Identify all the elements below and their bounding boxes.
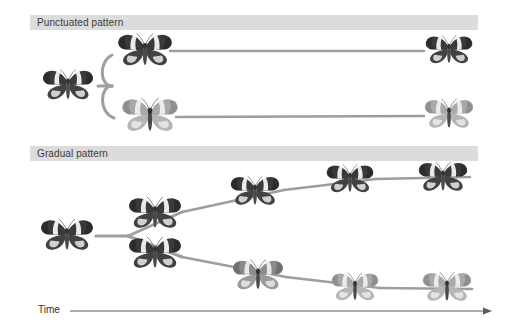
panel-label-gradual: Gradual pattern (30, 148, 108, 159)
butterfly-gradual-upper-step-2 (228, 171, 282, 214)
butterfly-gradual-lower-step-2 (230, 254, 286, 298)
butterfly-gradual-lower-step-3 (329, 267, 381, 308)
butterfly-gradual-lower-terminal (420, 267, 474, 310)
butterfly-punctuated-lower-descendant-origin (119, 92, 181, 141)
time-axis-label: Time (38, 304, 60, 315)
butterfly-gradual-upper-step-1 (126, 191, 184, 237)
butterfly-punctuated-upper-descendant-origin (115, 27, 175, 74)
figure-canvas: Punctuated pattern Gradual pattern (0, 0, 508, 326)
butterfly-punctuated-ancestor (40, 64, 96, 108)
panel-band-gradual: Gradual pattern (30, 146, 478, 161)
butterfly-gradual-upper-terminal (416, 157, 470, 200)
butterfly-gradual-lower-step-1 (126, 231, 184, 277)
butterfly-gradual-ancestor (38, 213, 96, 259)
butterfly-punctuated-upper-descendant-terminal (423, 30, 475, 71)
butterfly-gradual-upper-step-3 (324, 159, 376, 200)
panel-label-punctuated: Punctuated pattern (30, 17, 123, 28)
panel-band-punctuated: Punctuated pattern (30, 15, 478, 30)
butterfly-punctuated-lower-descendant-terminal (422, 94, 476, 137)
